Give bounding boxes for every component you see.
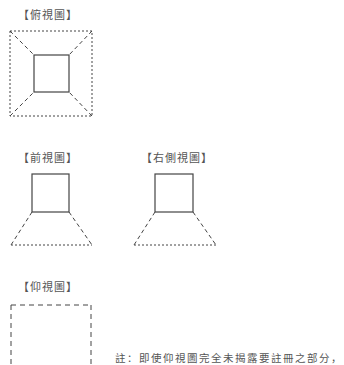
- note-line-1: 註：即使仰視圖完全未揭露要註冊之部分，: [115, 350, 343, 365]
- design-drawing: [0, 0, 344, 365]
- top-view-drawing: [10, 31, 92, 116]
- right-side-view-drawing: [134, 174, 216, 245]
- bottom-view-drawing: [11, 305, 91, 365]
- front-view-drawing: [11, 174, 92, 245]
